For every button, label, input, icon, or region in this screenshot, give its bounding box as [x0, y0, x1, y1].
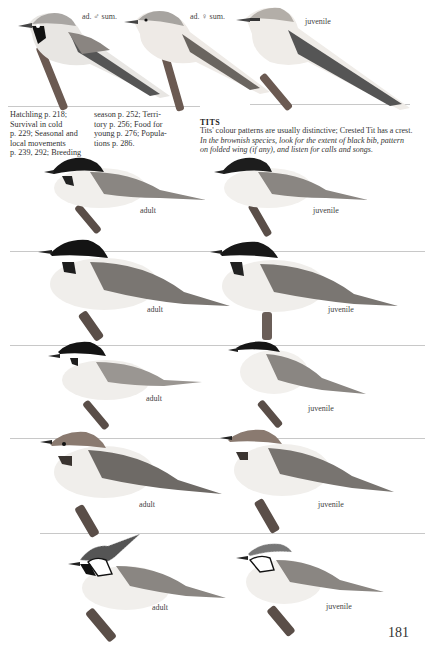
cross-reference-col2: season p. 252; Terri- tory p. 256; Food …: [94, 110, 167, 148]
label-adult: adult: [146, 394, 162, 403]
label-female-summer: ad. ♀ sum.: [190, 12, 225, 21]
label-juvenile: juvenile: [313, 206, 339, 215]
label-juvenile: juvenile: [328, 305, 354, 314]
tit-row2-juvenile-illustration: [208, 236, 408, 346]
tit-row3-juvenile-illustration: [226, 340, 376, 435]
label-juvenile: juvenile: [326, 602, 352, 611]
label-adult: adult: [147, 305, 163, 314]
tit-row1-adult-illustration: [40, 150, 210, 240]
label-adult: adult: [139, 500, 155, 509]
page-number: 181: [388, 625, 409, 641]
label-juvenile: juvenile: [305, 17, 331, 26]
label-juvenile: juvenile: [318, 500, 344, 509]
label-juvenile: juvenile: [308, 404, 334, 413]
tit-row2-adult-illustration: [34, 234, 234, 344]
tit-row1-juvenile-illustration: [212, 150, 382, 240]
crested-tit-juvenile-illustration: [234, 538, 394, 643]
tit-row3-adult-illustration: [46, 340, 216, 435]
label-adult: adult: [152, 603, 168, 612]
crested-tit-adult-illustration: [66, 530, 236, 645]
label-adult: adult: [140, 206, 156, 215]
tit-row4-adult-illustration: [38, 428, 228, 538]
tit-row4-juvenile-illustration: [218, 426, 398, 536]
label-male-summer: ad. ♂ sum.: [82, 12, 117, 21]
